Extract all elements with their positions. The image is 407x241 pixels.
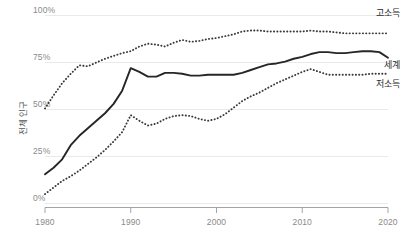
x-tick-label-1980: 1980 (35, 217, 54, 227)
x-axis-tick-labels: 19801990200020102020 (35, 217, 397, 227)
x-axis-ticks-group (45, 208, 388, 214)
x-tick-label-2020: 2020 (378, 217, 397, 227)
line-chart: 100%75%50%25%0% 19801990200020102020 고소득… (0, 0, 407, 241)
series-paths-group (45, 31, 388, 195)
series-label-세계: 세계 (384, 59, 400, 70)
series-line-고소득 (45, 31, 388, 109)
series-label-고소득: 고소득 (376, 8, 400, 18)
series-line-저소득 (45, 69, 388, 194)
y-tick-label-0: 0% (33, 193, 46, 203)
series-line-세계 (45, 51, 388, 174)
x-tick-label-2000: 2000 (207, 217, 226, 227)
y-tick-label-75: 75% (33, 52, 51, 62)
y-axis-title: 전체 인구 (18, 101, 28, 136)
x-tick-label-1990: 1990 (121, 217, 140, 227)
x-tick-label-2010: 2010 (293, 217, 312, 227)
y-axis-tick-labels: 100%75%50%25%0% (33, 5, 55, 203)
y-tick-label-25: 25% (33, 146, 51, 156)
gridlines-group (45, 16, 388, 204)
series-inline-labels: 고소득세계저소득 (376, 8, 400, 89)
series-label-저소득: 저소득 (376, 79, 400, 89)
chart-container: 100%75%50%25%0% 19801990200020102020 고소득… (0, 0, 407, 241)
y-tick-label-100: 100% (33, 5, 55, 15)
